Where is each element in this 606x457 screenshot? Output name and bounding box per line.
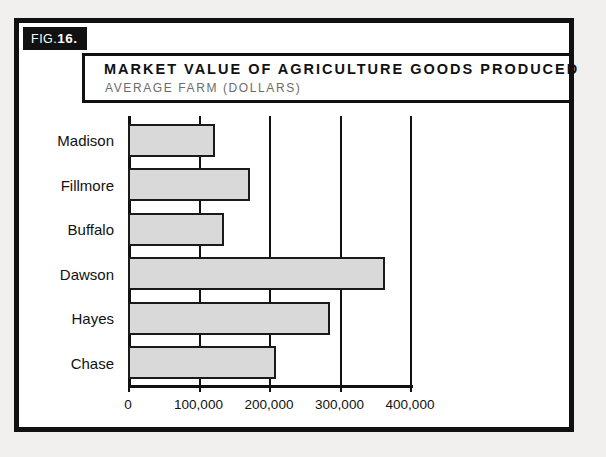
category-label-madison: Madison <box>57 132 114 149</box>
category-label-buffalo: Buffalo <box>68 221 114 238</box>
grid-line <box>410 116 412 385</box>
category-label-dawson: Dawson <box>60 265 114 282</box>
category-label-chase: Chase <box>71 354 114 371</box>
x-axis-tick <box>128 385 130 392</box>
figure-number: 16. <box>57 31 77 46</box>
chart-title: MARKET VALUE OF AGRICULTURE GOODS PRODUC… <box>104 61 579 77</box>
figure-page: 0100,000200,000300,000400,000MadisonFill… <box>0 0 606 457</box>
category-label-fillmore: Fillmore <box>61 176 114 193</box>
x-axis-tick-label: 300,000 <box>315 397 364 412</box>
x-axis-tick-label: 200,000 <box>245 397 294 412</box>
chart-title-box: MARKET VALUE OF AGRICULTURE GOODS PRODUC… <box>82 53 572 103</box>
x-axis-tick-label: 0 <box>124 397 132 412</box>
grid-line <box>340 116 342 385</box>
bar-chase <box>128 346 276 379</box>
bar-madison <box>128 124 215 157</box>
bar-buffalo <box>128 213 224 246</box>
x-axis-tick <box>269 385 271 392</box>
x-axis-tick-label: 400,000 <box>386 397 435 412</box>
x-axis-tick-label: 100,000 <box>174 397 223 412</box>
bar-fillmore <box>128 168 250 201</box>
x-axis-tick <box>410 385 412 392</box>
bar-dawson <box>128 257 385 290</box>
category-label-hayes: Hayes <box>71 310 114 327</box>
grid-line <box>269 116 271 385</box>
figure-label: FIG. <box>31 32 57 46</box>
figure-number-tab: FIG. 16. <box>23 27 87 50</box>
x-axis-tick <box>340 385 342 392</box>
chart-subtitle: AVERAGE FARM (DOLLARS) <box>105 81 301 95</box>
plot-area: 0100,000200,000300,000400,000MadisonFill… <box>128 118 410 385</box>
x-axis-tick <box>199 385 201 392</box>
bar-hayes <box>128 302 330 335</box>
